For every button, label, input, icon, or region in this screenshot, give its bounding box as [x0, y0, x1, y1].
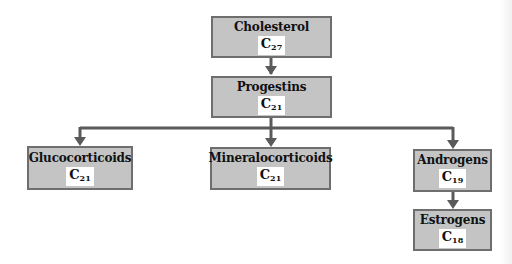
node-name: Androgens	[417, 153, 487, 167]
node-androgens: Androgens C19	[413, 149, 492, 192]
node-name: Cholesterol	[234, 20, 309, 34]
node-formula: C18	[439, 229, 467, 248]
node-formula: C21	[258, 96, 286, 115]
node-name: Estrogens	[420, 213, 485, 227]
node-formula: C19	[439, 169, 467, 188]
node-cholesterol: Cholesterol C27	[211, 16, 332, 58]
node-glucocorticoids: Glucocorticoids C21	[27, 146, 133, 190]
node-mineralocorticoids: Mineralocorticoids C21	[210, 147, 331, 190]
node-name: Progestins	[237, 80, 307, 94]
arrowhead-icon	[265, 138, 277, 147]
arrowhead-icon	[447, 200, 459, 209]
node-name: Glucocorticoids	[29, 151, 132, 165]
node-estrogens: Estrogens C18	[413, 209, 492, 251]
node-formula: C21	[66, 167, 94, 186]
node-formula: C21	[257, 167, 285, 186]
node-progestins: Progestins C21	[211, 76, 332, 118]
node-formula: C27	[258, 36, 286, 55]
node-name: Mineralocorticoids	[209, 151, 333, 165]
arrowhead-icon	[74, 137, 86, 146]
arrowhead-icon	[447, 140, 459, 149]
arrowhead-icon	[265, 66, 277, 75]
